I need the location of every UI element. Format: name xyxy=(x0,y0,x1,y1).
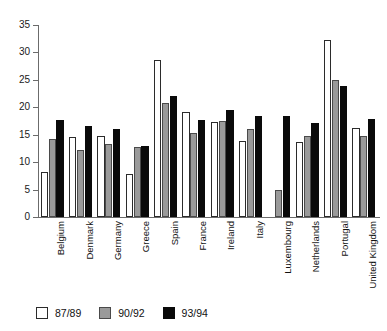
x-axis-category-label: Greece xyxy=(141,221,151,252)
x-axis-category-label: Belgium xyxy=(56,221,66,255)
bar xyxy=(311,123,318,217)
bar-group xyxy=(154,25,177,217)
x-axis-category-label: Netherlands xyxy=(311,221,321,272)
legend-item: 87/89 xyxy=(36,307,81,319)
bar xyxy=(134,147,141,217)
bar xyxy=(105,144,112,217)
bar xyxy=(211,122,218,217)
bar xyxy=(304,136,311,217)
bar xyxy=(360,136,367,217)
legend-item-label: 90/92 xyxy=(118,307,144,319)
x-axis-category-label: Denmark xyxy=(85,221,95,260)
gray-swatch xyxy=(99,307,111,319)
bar xyxy=(219,121,226,217)
bar xyxy=(141,146,148,217)
bar-group xyxy=(211,25,234,217)
bar xyxy=(162,103,169,217)
bar xyxy=(283,116,290,217)
x-axis-category-label: Germany xyxy=(113,221,123,260)
plot-area xyxy=(38,25,378,217)
chart-legend: 87/8990/9293/94 xyxy=(36,305,226,321)
x-axis-category-label: Italy xyxy=(255,221,265,238)
bar-group xyxy=(352,25,375,217)
bar xyxy=(126,174,133,217)
x-axis-category-label: France xyxy=(198,221,208,251)
bar xyxy=(198,120,205,217)
legend-item: 93/94 xyxy=(163,307,208,319)
y-axis-tick: 0 xyxy=(33,217,39,218)
bar xyxy=(49,139,56,217)
y-axis-tick-label: 30 xyxy=(19,46,30,57)
bar xyxy=(275,190,282,217)
x-axis-category-label: Portugal xyxy=(340,221,350,256)
bar-group xyxy=(97,25,120,217)
x-axis-category-label: Spain xyxy=(170,221,180,245)
y-axis-tick-label: 10 xyxy=(19,156,30,167)
white-swatch xyxy=(36,307,48,319)
bar-group xyxy=(69,25,92,217)
bar xyxy=(190,133,197,217)
y-axis-tick-label: 15 xyxy=(19,129,30,140)
y-axis-tick-label: 20 xyxy=(19,101,30,112)
bar-group xyxy=(41,25,64,217)
bar xyxy=(340,86,347,217)
bar xyxy=(332,80,339,217)
bar-group xyxy=(182,25,205,217)
bar xyxy=(113,129,120,217)
x-axis-category-label: United Kingdom xyxy=(368,221,378,289)
bar xyxy=(154,60,161,217)
bar xyxy=(85,126,92,217)
legend-item-label: 93/94 xyxy=(182,307,208,319)
bar-group xyxy=(267,25,290,217)
bar xyxy=(182,112,189,217)
y-axis-tick-label: 25 xyxy=(19,74,30,85)
bar xyxy=(97,136,104,217)
bar xyxy=(69,137,76,217)
legend-item: 90/92 xyxy=(99,307,144,319)
x-axis-category-label: Luxembourg xyxy=(283,221,293,274)
legend-item-label: 87/89 xyxy=(55,307,81,319)
bar xyxy=(170,96,177,217)
bar xyxy=(56,120,63,217)
bar xyxy=(239,141,246,217)
bar-group xyxy=(296,25,319,217)
bar xyxy=(324,40,331,217)
y-axis-tick-label: 35 xyxy=(19,19,30,30)
y-axis-tick-label: 5 xyxy=(24,184,30,195)
bar-group xyxy=(126,25,149,217)
bar xyxy=(352,128,359,217)
y-axis-tick-label: 0 xyxy=(24,211,30,222)
bar xyxy=(368,119,375,217)
x-axis-line xyxy=(38,217,380,218)
bar-group xyxy=(324,25,347,217)
bar-chart: 05101520253035 BelgiumDenmarkGermanyGree… xyxy=(0,0,387,331)
bar xyxy=(77,150,84,217)
bar xyxy=(255,116,262,217)
bar xyxy=(296,142,303,217)
black-swatch xyxy=(163,307,175,319)
bar xyxy=(247,129,254,217)
x-axis-category-label: Ireland xyxy=(226,221,236,250)
bar xyxy=(41,172,48,217)
bar xyxy=(226,110,233,217)
bar-group xyxy=(239,25,262,217)
